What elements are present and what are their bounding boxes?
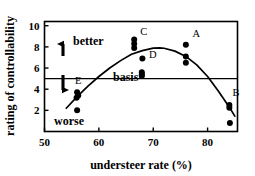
group-label-B: B <box>233 87 240 98</box>
data-point-A <box>183 60 189 66</box>
data-point-C <box>131 45 137 51</box>
data-point-A <box>183 42 189 48</box>
x-tick-label: 80 <box>202 136 214 148</box>
data-point-B <box>226 105 232 111</box>
group-label-A: A <box>192 28 200 39</box>
data-point-B <box>227 120 233 126</box>
y-tick-label: 10 <box>29 20 41 32</box>
data-point-D <box>139 73 145 79</box>
y-tick-label: 2 <box>34 104 40 116</box>
group-label-D: D <box>149 49 157 60</box>
y-axis-title: rating of controllability <box>3 16 17 136</box>
y-tick-label: 8 <box>34 41 40 53</box>
data-point-A <box>183 53 189 59</box>
y-tick-label: 6 <box>34 62 40 74</box>
chart-figure: 246810 50607080 ABCDE better worse basis… <box>0 0 255 176</box>
x-tick-label: 70 <box>148 136 160 148</box>
x-tick-label: 50 <box>39 136 51 148</box>
y-tick-label: 4 <box>34 83 40 95</box>
data-point-D <box>139 56 145 62</box>
data-point-E <box>74 107 80 113</box>
better-label: better <box>73 34 104 48</box>
basis-label: basis <box>113 70 139 84</box>
x-tick-label: 60 <box>93 136 105 148</box>
group-label-C: C <box>140 26 147 37</box>
worse-label: worse <box>54 114 85 128</box>
group-label-E: E <box>75 75 81 86</box>
data-point-E <box>74 95 80 101</box>
x-axis-title: understeer rate (%) <box>90 158 192 172</box>
understeer-rate-scatter-plot: 246810 50607080 ABCDE better worse basis… <box>0 0 255 176</box>
